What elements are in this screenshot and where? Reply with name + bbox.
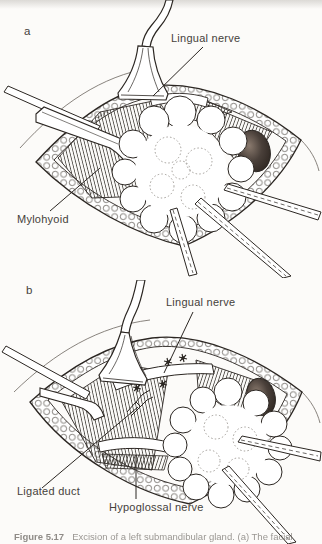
label-hypoglossal-nerve: Hypoglossal nerve — [109, 501, 204, 514]
label-lingual-nerve-a: Lingual nerve — [171, 32, 240, 45]
panel-b-letter: b — [26, 284, 33, 297]
floor-muscle-hatch — [102, 454, 168, 470]
figure-caption: Figure 5.17Excision of a left submandibu… — [14, 531, 322, 542]
panel-a-illustration — [0, 0, 322, 278]
top-retractor — [99, 280, 147, 385]
label-ligated-duct: Ligated duct — [17, 485, 80, 498]
label-lingual-nerve-b: Lingual nerve — [166, 296, 235, 309]
panel-a-letter: a — [24, 25, 31, 38]
figure-caption-number: Figure 5.17 — [14, 531, 64, 542]
retractor-shaft — [142, 0, 173, 47]
figure-caption-text: Excision of a left submandibular gland. … — [72, 531, 293, 542]
retractor-blade — [118, 46, 168, 100]
figure-page: a Lingual nerve Mylohyoid b Lingual nerv… — [0, 0, 322, 544]
label-mylohyoid: Mylohyoid — [17, 213, 69, 226]
retractor-shaft — [121, 280, 145, 333]
